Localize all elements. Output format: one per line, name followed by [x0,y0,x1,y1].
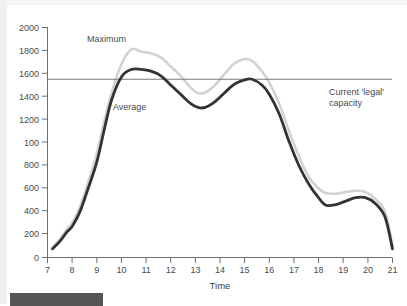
x-tick-label-6: 13 [190,265,200,275]
y-tick-label-5: 100 [24,138,39,148]
y-tick-label-9: 1800 [19,46,39,56]
y-tick-label-1: 200 [24,229,39,239]
average-series-label: Average [113,102,146,112]
x-tick-label-14: 21 [387,265,397,275]
x-tick-label-0: 7 [45,265,50,275]
x-tick-label-8: 15 [240,265,250,275]
x-axis-ticks [48,258,393,264]
x-axis-title: Time [210,280,231,291]
x-tick-label-5: 12 [166,265,176,275]
y-axis-ticks [42,28,47,258]
y-tick-label-2: 400 [24,206,39,216]
plot-area-background [47,20,392,258]
y-tick-label-3: 600 [24,183,39,193]
y-tick-label-8: 1600 [19,69,39,79]
x-tick-label-9: 16 [264,265,274,275]
x-tick-label-11: 18 [314,265,324,275]
y-axis-tick-labels: 2000 1800 1600 1400 1200 100 800 600 400… [19,23,39,263]
x-tick-label-1: 8 [70,265,75,275]
y-tick-label-4: 800 [24,160,39,170]
x-tick-label-13: 20 [363,265,373,275]
y-tick-label-0: 0 [34,253,39,263]
capacity-annotation-line1: Current 'legal' [329,87,384,97]
x-tick-label-12: 19 [338,265,348,275]
x-tick-label-4: 11 [141,265,150,275]
x-tick-label-2: 9 [94,265,99,275]
y-tick-label-6: 1200 [19,115,39,125]
caption-bar [10,293,103,306]
maximum-series-label: Maximum [87,34,126,44]
capacity-annotation-line2: capacity [329,98,363,108]
y-tick-label-7: 1400 [19,92,39,102]
x-axis-tick-labels: 7 8 9 10 11 12 13 14 15 16 17 18 19 20 2… [45,265,398,275]
y-tick-label-10: 2000 [19,23,39,33]
x-tick-label-3: 10 [116,265,126,275]
x-tick-label-10: 17 [289,265,299,275]
x-tick-label-7: 14 [215,265,225,275]
